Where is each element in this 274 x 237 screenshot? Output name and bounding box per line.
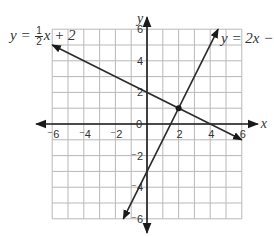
y-tick-label: 4 — [137, 55, 143, 67]
eq1-suffix: x + 2 — [44, 27, 76, 43]
x-tick-label: 6 — [240, 128, 246, 140]
equation-label-line1: y = 12x + 2 — [10, 26, 76, 47]
y-tick-label: ⁻6 — [131, 213, 143, 225]
x-axis-label: x — [260, 116, 268, 131]
x-tick-label: 2 — [177, 128, 183, 140]
x-tick-label: ⁻6 — [47, 128, 59, 140]
equation-label-line2: y = 2x − — [221, 30, 273, 47]
y-tick-label: ⁻2 — [131, 150, 143, 162]
y-axis-label: y — [135, 11, 144, 26]
eq1-prefix: y = — [10, 27, 34, 43]
x-tick-label: ⁻4 — [79, 128, 91, 140]
fraction: 12 — [35, 26, 43, 47]
intersection-point — [176, 105, 182, 111]
x-tick-label: 4 — [208, 128, 214, 140]
x-tick-label: 0 — [136, 118, 142, 130]
fraction-denominator: 2 — [35, 37, 43, 47]
x-tick-label: ⁻2 — [110, 128, 122, 140]
eq2-text: y = 2x − — [221, 30, 273, 46]
